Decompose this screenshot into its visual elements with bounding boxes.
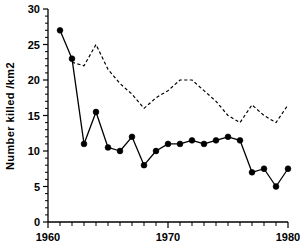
series-dashed-line	[72, 45, 288, 123]
data-point-marker	[165, 141, 171, 147]
data-point-marker	[105, 145, 111, 151]
y-tick-label: 15	[28, 110, 40, 122]
data-point-marker	[129, 134, 135, 140]
x-axis-tick-labels: 196019701980	[36, 231, 300, 243]
x-axis: 196019701980	[36, 222, 300, 243]
data-point-marker	[285, 166, 291, 172]
data-point-marker	[153, 148, 159, 154]
data-point-marker	[249, 169, 255, 175]
y-axis: 051015202530	[28, 3, 48, 228]
y-axis-title-label: Number killed /km2	[4, 62, 16, 170]
y-tick-label: 25	[28, 39, 40, 51]
x-tick-label: 1970	[156, 231, 180, 243]
y-tick-label: 20	[28, 74, 40, 86]
chart-figure: 051015202530 196019701980 Number killed …	[0, 0, 301, 252]
data-point-marker	[57, 27, 63, 33]
series-solid	[60, 30, 288, 186]
data-point-marker	[141, 162, 147, 168]
line-chart-plot: 051015202530 196019701980 Number killed …	[0, 0, 301, 252]
data-point-marker	[117, 148, 123, 154]
series-dashed	[72, 45, 288, 123]
data-point-marker	[225, 134, 231, 140]
y-axis-major-ticks	[43, 9, 48, 222]
x-tick-label: 1960	[36, 231, 60, 243]
data-point-marker	[273, 184, 279, 190]
data-point-marker	[237, 137, 243, 143]
y-tick-label: 0	[34, 216, 40, 228]
data-point-marker	[213, 137, 219, 143]
series-solid-line	[60, 30, 288, 186]
data-point-marker	[69, 56, 75, 62]
data-point-marker	[189, 137, 195, 143]
x-tick-label: 1980	[276, 231, 300, 243]
y-tick-label: 5	[34, 181, 40, 193]
data-point-marker	[261, 166, 267, 172]
y-tick-label: 30	[28, 3, 40, 15]
data-point-marker	[177, 141, 183, 147]
y-axis-title: Number killed /km2	[4, 62, 16, 170]
y-axis-tick-labels: 051015202530	[28, 3, 40, 228]
data-point-marker	[201, 141, 207, 147]
data-point-marker	[81, 141, 87, 147]
data-point-marker	[93, 109, 99, 115]
y-tick-label: 10	[28, 145, 40, 157]
